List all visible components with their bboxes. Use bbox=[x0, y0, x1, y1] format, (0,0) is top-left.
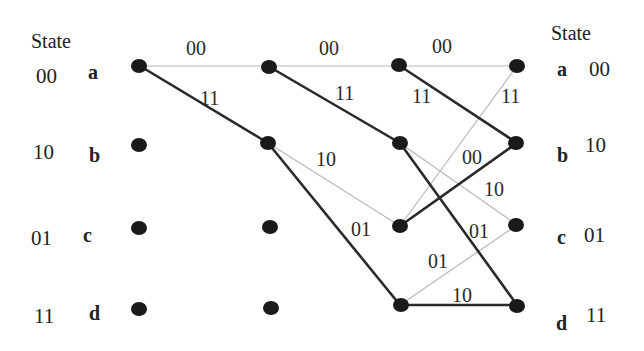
right-state-header: State bbox=[551, 22, 591, 44]
node-0-d bbox=[131, 302, 147, 316]
edge-labels: 00 11 00 11 10 01 00 11 11 00 10 01 01 1… bbox=[186, 35, 520, 306]
edge-label-1-a-a: 00 bbox=[319, 37, 339, 59]
left-state-letter-d: d bbox=[89, 302, 100, 324]
edge-label-2-d-c: 01 bbox=[428, 250, 448, 272]
node-1-b bbox=[260, 136, 276, 150]
node-2-b bbox=[392, 136, 408, 150]
left-state-letter-c: c bbox=[83, 224, 92, 246]
node-3-c bbox=[508, 218, 524, 232]
edge-label-2-c-a: 11 bbox=[501, 85, 520, 107]
edge-label-2-b-d: 01 bbox=[469, 220, 489, 242]
left-state-header: State bbox=[31, 30, 71, 52]
edge-label-0-a-b: 11 bbox=[200, 87, 219, 109]
node-1-d bbox=[263, 301, 279, 315]
node-2-a bbox=[391, 58, 407, 72]
node-3-b bbox=[508, 136, 524, 150]
node-0-a bbox=[131, 59, 147, 73]
left-state-code-d: 11 bbox=[34, 304, 54, 328]
node-1-c bbox=[262, 220, 278, 234]
edge-label-1-b-d: 01 bbox=[351, 218, 371, 240]
right-state-letter-b: b bbox=[557, 144, 568, 166]
edge-label-2-a-b: 11 bbox=[412, 85, 431, 107]
node-1-a bbox=[261, 60, 277, 74]
node-0-c bbox=[131, 221, 147, 235]
edge-label-1-b-c: 10 bbox=[316, 148, 336, 170]
trellis-diagram: State 00 a 10 b 01 c 11 d State a 00 b 1… bbox=[0, 0, 644, 351]
right-state-letter-a: a bbox=[557, 58, 567, 80]
edge-label-2-c-b: 00 bbox=[462, 146, 482, 168]
right-state-letter-c: c bbox=[557, 226, 566, 248]
node-3-a bbox=[509, 59, 525, 73]
edge-label-2-a-a: 00 bbox=[432, 35, 452, 57]
right-state-letter-d: d bbox=[556, 312, 567, 334]
left-state-code-a: 00 bbox=[36, 64, 57, 88]
right-state-code-b: 10 bbox=[585, 133, 606, 157]
node-2-d bbox=[393, 298, 409, 312]
node-0-b bbox=[131, 138, 147, 152]
edge-label-1-a-b: 11 bbox=[335, 82, 354, 104]
right-state-code-c: 01 bbox=[584, 223, 605, 247]
right-state-code-d: 11 bbox=[586, 303, 606, 327]
edge-label-2-d-d: 10 bbox=[452, 284, 472, 306]
node-2-c bbox=[392, 219, 408, 233]
left-state-code-c: 01 bbox=[31, 226, 52, 250]
edge-label-0-a-a: 00 bbox=[186, 37, 206, 59]
node-3-d bbox=[509, 299, 525, 313]
edge-2-b-d bbox=[400, 143, 517, 305]
edge-1-a-b bbox=[268, 66, 400, 143]
right-state-code-a: 00 bbox=[589, 57, 610, 81]
left-state-letter-b: b bbox=[89, 144, 100, 166]
left-state-code-b: 10 bbox=[33, 140, 54, 164]
left-state-letter-a: a bbox=[88, 61, 98, 83]
edge-label-2-b-c: 10 bbox=[484, 178, 504, 200]
